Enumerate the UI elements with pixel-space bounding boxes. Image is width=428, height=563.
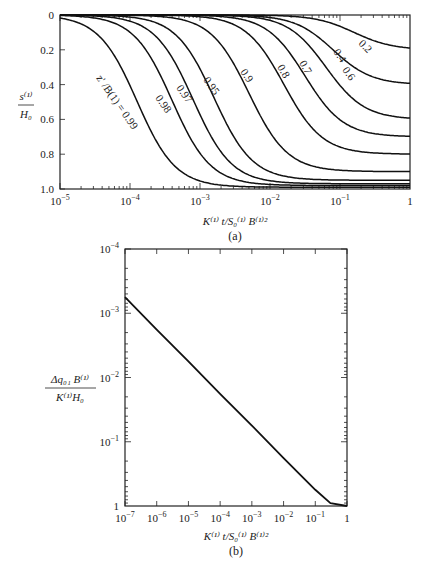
y-tick-label: 1.0	[40, 183, 54, 195]
x-axis-label-a: K⁽¹⁾ t/S₀⁽¹⁾ B⁽¹⁾²	[202, 215, 268, 227]
y-tick-label: 0.8	[40, 148, 54, 160]
panel-a-chart: 10−510−410−310−210−1100.20.40.60.81.00.2…	[18, 9, 413, 243]
x-tick-label: 10−5	[50, 193, 70, 207]
x-tick-label: 10−7	[115, 510, 135, 524]
x-tick-label: 10−4	[210, 510, 230, 524]
x-tick-label: 10−1	[330, 193, 350, 207]
curve-label-0.95: 0.95	[201, 74, 222, 97]
x-tick-label: 10−3	[190, 193, 210, 207]
y-tick-label: 0.4	[40, 79, 54, 91]
y-axis-label-num: Δq₀₁ B⁽¹⁾	[50, 373, 89, 385]
y-tick-label: 10−3	[99, 305, 119, 319]
y-axis-label-num: s⁽¹⁾	[20, 90, 33, 102]
x-axis-label-b: K⁽¹⁾ t/S₀⁽¹⁾ B⁽¹⁾²	[203, 530, 269, 542]
y-tick-label: 1	[114, 500, 120, 512]
x-tick-label: 1	[407, 195, 413, 207]
curve-label-0.6: 0.6	[340, 64, 358, 83]
panel-b-chart: 10−710−610−510−410−310−210−1110−410−310−…	[45, 241, 350, 558]
x-tick-label: 10−3	[242, 510, 262, 524]
y-tick-label: 10−1	[99, 434, 119, 448]
x-tick-label: 10−5	[179, 510, 199, 524]
y-tick-label: 0	[49, 9, 55, 21]
y-axis-label-den: H₀	[19, 108, 32, 120]
curve-label-0.98: 0.98	[153, 92, 174, 115]
figure: 10−510−410−310−210−1100.20.40.60.81.00.2…	[0, 0, 428, 563]
x-tick-label: 10−4	[120, 193, 140, 207]
y-tick-label: 10−4	[99, 241, 119, 255]
curve-label-0.97: 0.97	[174, 82, 195, 105]
y-tick-label: 10−2	[99, 370, 119, 384]
curve-flow	[125, 297, 347, 506]
x-tick-label: 1	[344, 512, 350, 524]
x-tick-label: 10−2	[260, 193, 280, 207]
x-tick-label: 10−1	[306, 510, 326, 524]
curve-0.2	[60, 15, 410, 48]
caption-a: (a)	[228, 229, 241, 243]
curve-label-0.9: 0.9	[238, 66, 256, 85]
y-axis-label-den: K⁽¹⁾H₀	[55, 391, 84, 403]
curve-label-0.7: 0.7	[297, 58, 315, 76]
caption-b: (b)	[229, 544, 243, 558]
x-tick-label: 10−2	[274, 510, 294, 524]
y-tick-label: 0.2	[40, 44, 54, 56]
y-tick-label: 0.6	[40, 113, 54, 125]
x-tick-label: 10−6	[147, 510, 167, 524]
param-label: z' /B(1) = 0.99	[94, 72, 142, 132]
plot-b-frame	[125, 249, 347, 506]
curve-label-0.8: 0.8	[275, 62, 293, 80]
